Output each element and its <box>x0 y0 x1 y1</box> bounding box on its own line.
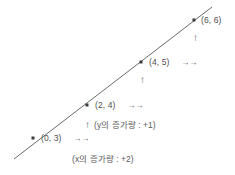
point-marker-0-3 <box>32 137 35 140</box>
right-arrow-icon-2-4: →→ <box>127 101 143 110</box>
point-marker-2-4 <box>86 104 89 107</box>
up-arrow-icon-2: ↑ <box>140 75 145 85</box>
linear-graph-figure: (0, 3) (2, 4) (4, 5) (6, 6) →→ →→ →→ ↑ ↑… <box>0 0 235 175</box>
right-arrow-icon-0-3: →→ <box>73 134 89 143</box>
y-increment-annotation: (y의 증가량 : +1) <box>94 121 156 130</box>
point-label-2-4: (2, 4) <box>95 101 115 110</box>
up-arrow-icon-1: ↑ <box>85 120 90 130</box>
point-label-6-6: (6, 6) <box>201 16 221 25</box>
point-label-0-3: (0, 3) <box>41 134 61 143</box>
right-arrow-icon-4-5: →→ <box>181 58 197 67</box>
point-marker-6-6 <box>193 19 196 22</box>
x-increment-annotation: (x의 증가량 : +2) <box>72 155 134 164</box>
point-marker-4-5 <box>140 61 143 64</box>
up-arrow-icon-3: ↑ <box>193 33 198 43</box>
point-label-4-5: (4, 5) <box>149 58 169 67</box>
graph-line-layer <box>0 0 235 175</box>
